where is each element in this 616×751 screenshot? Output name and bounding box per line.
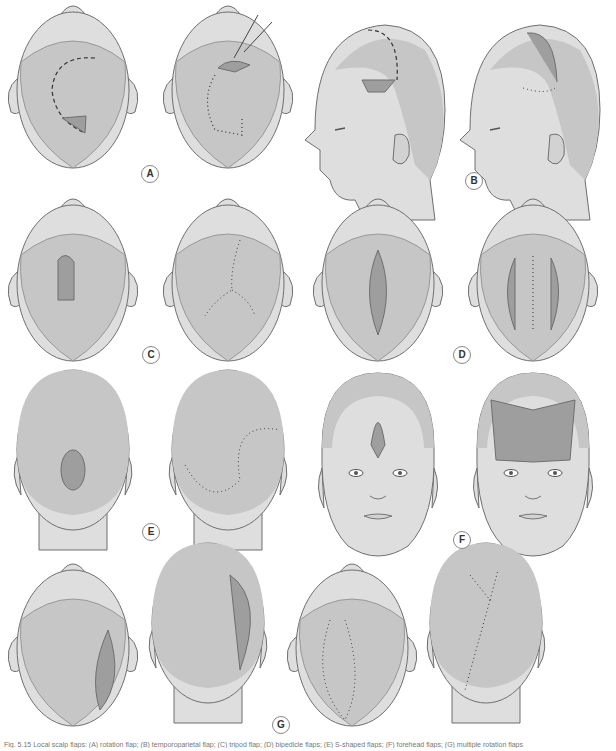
- panel-label-f: F: [453, 531, 471, 549]
- figure-illustration: [0, 0, 616, 751]
- panel-label-g: G: [272, 716, 290, 734]
- panel-label-a: A: [141, 165, 159, 183]
- figure-caption: Fig. 5.15 Local scalp flaps: (A) rotatio…: [4, 741, 612, 748]
- panel-label-e: E: [142, 523, 160, 541]
- panel-label-d: D: [453, 346, 471, 364]
- panel-label-c: C: [142, 346, 160, 364]
- panel-label-b: B: [465, 172, 483, 190]
